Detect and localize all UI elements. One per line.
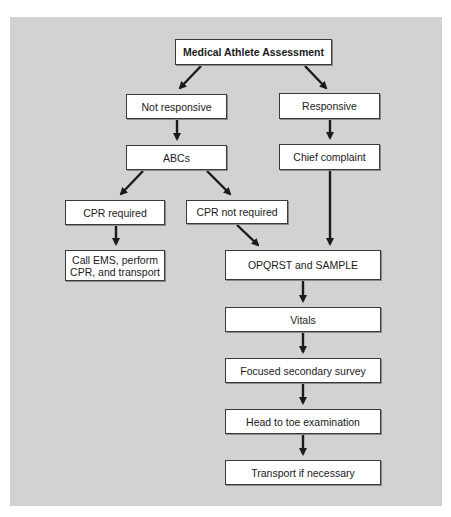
node-chief-complaint: Chief complaint <box>279 144 380 170</box>
node-transport-if-necessary: Transport if necessary <box>225 460 381 485</box>
node-label: Vitals <box>290 314 316 326</box>
node-label: Transport if necessary <box>251 467 354 479</box>
node-head-to-toe-examination: Head to toe examination <box>225 409 381 434</box>
node-abcs: ABCs <box>126 145 227 170</box>
node-cpr-required: CPR required <box>65 200 165 225</box>
node-vitals: Vitals <box>225 307 381 332</box>
node-label: Not responsive <box>141 101 211 113</box>
node-label-line2: CPR, and transport <box>70 266 160 278</box>
node-responsive: Responsive <box>279 93 380 119</box>
node-label: Focused secondary survey <box>240 365 365 377</box>
node-label: Medical Athlete Assessment <box>183 46 324 58</box>
node-not-responsive: Not responsive <box>126 94 227 119</box>
node-medical-athlete-assessment: Medical Athlete Assessment <box>175 39 332 65</box>
node-label: CPR not required <box>196 206 277 218</box>
node-opqrst-and-sample: OPQRST and SAMPLE <box>225 250 381 280</box>
node-label: Head to toe examination <box>246 416 360 428</box>
node-label: OPQRST and SAMPLE <box>248 259 358 271</box>
node-cpr-not-required: CPR not required <box>186 200 288 224</box>
node-label: CPR required <box>83 207 147 219</box>
node-label-line1: Call EMS, perform <box>72 254 158 266</box>
node-call-ems: Call EMS, perform CPR, and transport <box>65 250 165 281</box>
node-label: Chief complaint <box>293 151 365 163</box>
node-label: ABCs <box>163 152 190 164</box>
node-focused-secondary-survey: Focused secondary survey <box>225 358 381 383</box>
node-label: Responsive <box>302 100 357 112</box>
